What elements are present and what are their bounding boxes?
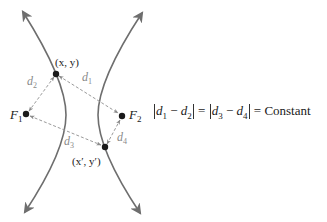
label-d3: d3 [64, 134, 74, 150]
label-x-y: (x, y) [55, 56, 79, 69]
focus-f2 [119, 113, 125, 119]
label-f2: F2 [128, 107, 141, 124]
label-x-prime-y-prime: (x′, y′) [72, 155, 101, 168]
label-d2: d2 [27, 74, 37, 90]
label-f1: F1 [9, 107, 22, 124]
focus-f1 [23, 111, 29, 117]
abs-bar [210, 104, 211, 119]
abs-bar [193, 104, 194, 119]
constant-difference-equation: d1 − d2 = d3 − d4 = Constant [153, 103, 311, 121]
abs-bar [249, 104, 250, 119]
left-hyperbola-branch [23, 12, 66, 212]
label-d4: d4 [117, 130, 127, 146]
abs-bar [154, 104, 155, 119]
point-x-y [53, 71, 59, 77]
point-x-prime-y-prime [102, 144, 108, 150]
label-d1: d1 [82, 70, 92, 86]
